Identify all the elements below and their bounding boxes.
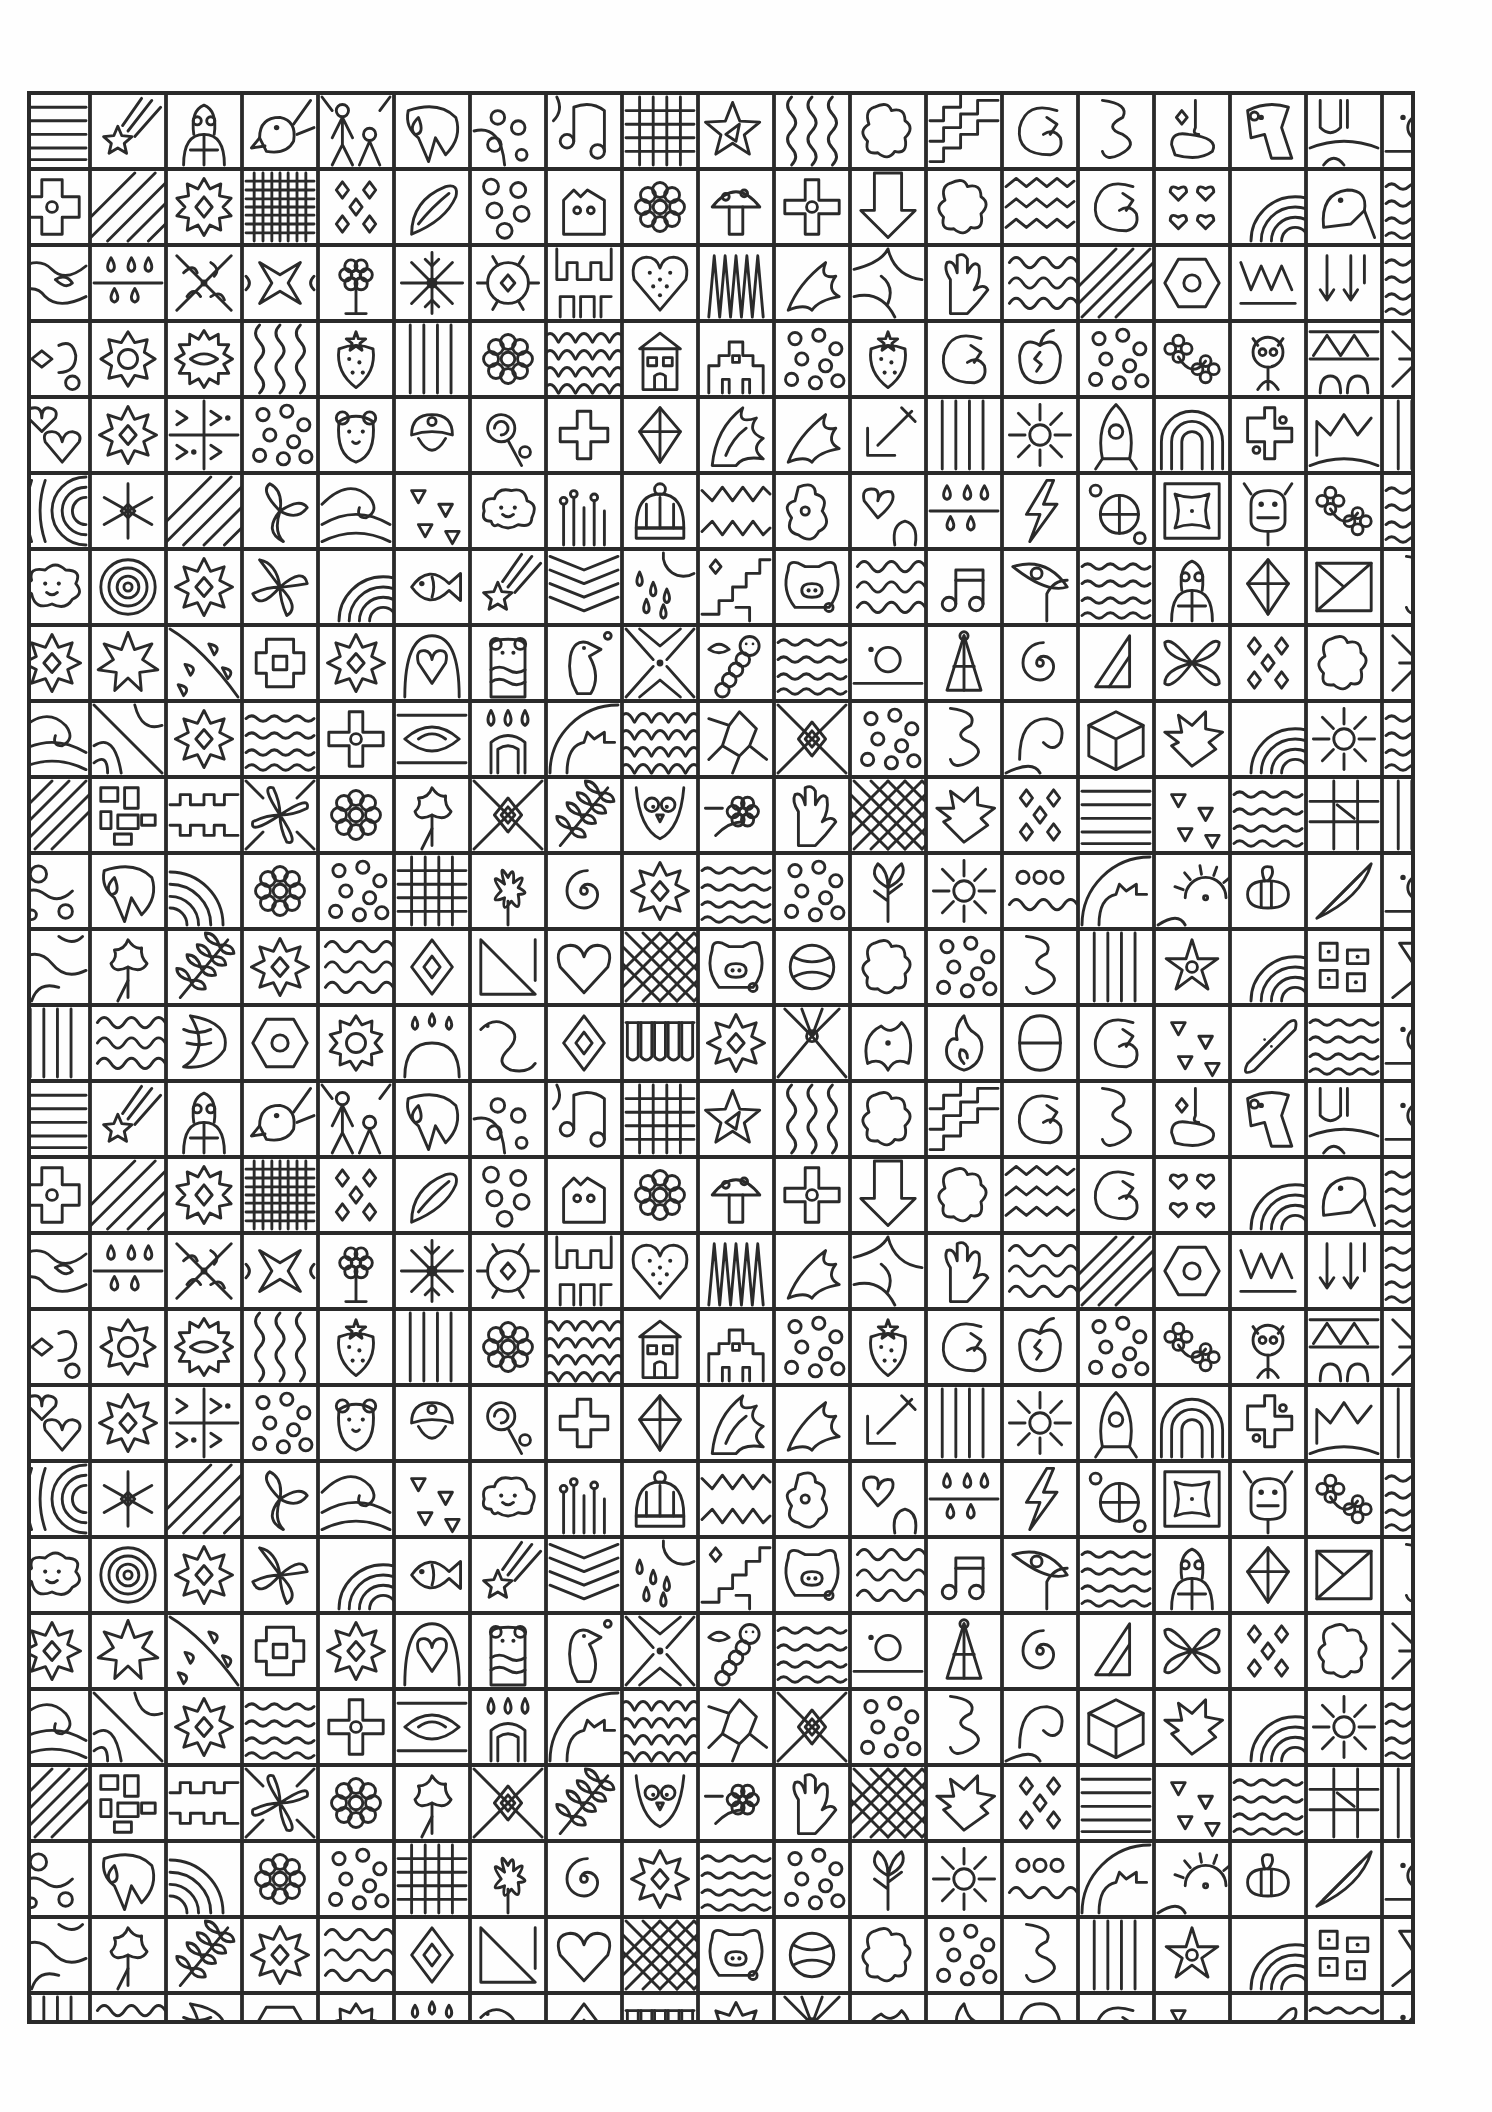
tile-leaf-x <box>177 1244 231 1298</box>
tile-spikes <box>709 256 763 317</box>
tile-bear <box>336 1400 375 1450</box>
tile-arrow-down <box>861 1161 915 1226</box>
tile-shooting-star <box>104 1086 161 1141</box>
tile-grid-fine <box>246 173 314 241</box>
tile-wave-h <box>778 1628 846 1682</box>
tile-rainbow <box>1251 729 1339 773</box>
tile-star-diamond <box>327 1622 384 1679</box>
tile-wave-teeth <box>702 487 770 535</box>
tile-rainbow <box>1251 1945 1339 1989</box>
tile-worm <box>709 636 759 697</box>
tile-diamonds <box>1248 638 1287 688</box>
tile-stripes-h <box>1082 1779 1150 1831</box>
tile-leaf-bird <box>1323 190 1374 238</box>
tile-squiggle <box>857 562 925 613</box>
tile-steps <box>702 1548 770 1609</box>
tile-flower-x <box>246 781 314 849</box>
tile-stripes-v <box>1398 401 1439 469</box>
tile-moon-blob <box>184 2004 226 2055</box>
tile-swirl-c <box>1019 108 1061 155</box>
tile-blocks <box>101 788 155 844</box>
tile-strawberry <box>339 332 374 388</box>
tile-hexagon <box>1165 259 1219 307</box>
tile-flower-bloom <box>495 870 525 925</box>
tile-dots <box>785 861 843 921</box>
tile-swirl-c <box>1095 1172 1137 1219</box>
tile-cloud <box>483 1478 534 1516</box>
tile-sun-fan <box>778 1997 846 2065</box>
tile-grid-coarse <box>398 857 466 925</box>
tile-bear-stripe <box>490 1627 525 1685</box>
tile-squiggle-s <box>1102 1088 1130 1145</box>
tile-circles <box>484 1167 530 1226</box>
tile-squiggle-s <box>1406 556 1434 613</box>
tile-fire <box>947 2004 982 2058</box>
tile-pinwheel <box>253 1548 307 1604</box>
tile-flower-x <box>246 1769 314 1837</box>
tile-music-notes <box>553 1085 604 1146</box>
tile-grid-flag <box>1310 1769 1378 1837</box>
tile-blob-circles <box>18 1854 72 1908</box>
tile-star-diamond <box>175 1698 232 1755</box>
tile-rainbow-q <box>170 872 223 925</box>
tile-stripes-v <box>1094 1921 1135 1989</box>
tile-figures <box>322 1085 390 1153</box>
tile-scales <box>618 714 702 774</box>
tile-fish <box>412 573 461 600</box>
tile-wave-h <box>1386 184 1454 238</box>
tile-heart <box>558 945 609 993</box>
tile-leaf-drop <box>408 1095 458 1150</box>
tile-triangles-s <box>1172 2011 1220 2064</box>
tile-chevrons <box>550 556 618 610</box>
tile-leaf-eye <box>1013 564 1067 621</box>
tile-steps <box>702 560 770 621</box>
tile-puzzle-cross <box>256 639 304 687</box>
tile-star-diamond <box>23 634 80 691</box>
tile-diamond-x <box>778 1693 846 1761</box>
tile-envelope <box>1317 1551 1371 1599</box>
tile-music-note <box>942 570 983 611</box>
tile-arrows-down <box>1320 256 1364 300</box>
tile-pig <box>710 942 762 991</box>
tile-leaf-drop <box>104 1855 154 1910</box>
tile-pig <box>710 1930 762 1979</box>
tile-leaf-pen <box>1317 864 1371 918</box>
tile-star-ring <box>1166 940 1218 989</box>
tile-drops <box>94 258 162 302</box>
tile-diamond <box>412 1928 453 1982</box>
tile-plus <box>560 411 608 459</box>
tile-diamond-x <box>778 705 846 773</box>
tile-bandage <box>1245 2008 1296 2060</box>
tile-leaf-pen <box>1317 1852 1371 1906</box>
tile-tower <box>947 632 981 690</box>
tile-dog-head <box>1248 104 1292 158</box>
tile-star-tri <box>705 102 759 154</box>
tile-squiggle-s <box>1026 1924 1054 1981</box>
tile-diamond-x <box>474 781 542 849</box>
tile-teeth <box>626 1023 694 1060</box>
tile-stripes-v <box>410 1313 451 1381</box>
tile-squiggle-s <box>1026 936 1054 993</box>
tile-leaf-curl <box>1006 1707 1062 1761</box>
tile-leaf-star <box>98 1620 158 1678</box>
tile-scales <box>542 334 626 394</box>
tile-house-cat <box>564 1178 605 1222</box>
tile-loops <box>1009 1859 1077 1897</box>
tile-pig <box>786 562 838 611</box>
tile-dots-c <box>854 647 922 684</box>
tile-oak-leaf <box>111 940 147 1001</box>
tile-theta <box>1020 1016 1061 1070</box>
tile-sun-ray <box>1313 1696 1374 1757</box>
tile-swirl-c <box>1019 1096 1061 1143</box>
tile-zigzag-grid <box>170 401 238 469</box>
tile-star-diamond <box>327 634 384 691</box>
tile-leaf-spike <box>1165 712 1223 766</box>
tile-mushroom-s <box>412 415 453 451</box>
tile-dots <box>1089 1317 1147 1377</box>
tile-mushroom <box>712 1178 760 1222</box>
tile-net <box>709 712 767 773</box>
tile-hearts <box>27 408 80 462</box>
tile-diamonds <box>1020 1778 1059 1828</box>
tile-scales <box>542 1322 626 1382</box>
tile-bee <box>1248 867 1289 908</box>
